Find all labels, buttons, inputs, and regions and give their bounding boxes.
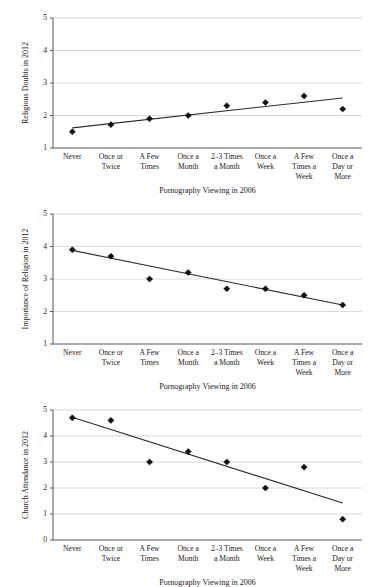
y-tick-label: 5	[43, 209, 47, 218]
x-axis-title: Pornography Viewing in 2006	[159, 382, 255, 391]
x-tick-label: 2–3 Timesa Month	[211, 544, 243, 563]
data-point-marker	[262, 99, 268, 105]
y-tick-label: 4	[43, 431, 47, 440]
x-tick-label: Once aMonth	[178, 152, 200, 171]
trend-line	[72, 417, 342, 503]
data-point-marker	[146, 459, 152, 465]
x-tick-label: A FewTimes	[140, 544, 161, 563]
data-point-marker	[224, 103, 230, 109]
x-tick-label: A FewTimes	[140, 348, 161, 367]
data-point-marker	[108, 417, 114, 423]
y-axis-title: Importance of Religion in 2012	[21, 229, 30, 330]
y-tick-label: 1	[43, 339, 47, 348]
data-point-marker	[69, 129, 75, 135]
x-tick-label: Once aWeek	[255, 544, 277, 563]
y-tick-label: 2	[43, 307, 47, 316]
data-point-marker	[262, 286, 268, 292]
y-axis-title: Religious Doubts in 2012	[21, 42, 30, 124]
three-panel-scatter-figure: 12345NeverOnce orTwiceA FewTimesOnce aMo…	[0, 0, 384, 587]
data-point-marker	[224, 459, 230, 465]
x-tick-label: Once aDay orMore	[332, 152, 354, 181]
chart-importance-of-religion: 12345NeverOnce orTwiceA FewTimesOnce aMo…	[0, 196, 384, 392]
y-tick-label: 2	[43, 111, 47, 120]
data-point-marker	[69, 415, 75, 421]
y-tick-label: 2	[43, 483, 47, 492]
y-tick-label: 3	[43, 457, 47, 466]
chart-religious-doubts: 12345NeverOnce orTwiceA FewTimesOnce aMo…	[0, 0, 384, 196]
importance-of-religion-plot: 12345NeverOnce orTwiceA FewTimesOnce aMo…	[0, 196, 384, 392]
x-tick-label: Once aDay orMore	[332, 544, 354, 573]
y-tick-label: 5	[43, 405, 47, 414]
x-tick-label: A FewTimes	[140, 152, 161, 171]
x-tick-label: Once aMonth	[178, 544, 200, 563]
y-tick-label: 1	[43, 143, 47, 152]
y-tick-label: 4	[43, 242, 47, 251]
y-tick-label: 3	[43, 78, 47, 87]
x-tick-label: Once aDay orMore	[332, 348, 354, 377]
data-point-marker	[185, 112, 191, 118]
y-tick-label: 0	[43, 535, 47, 544]
x-tick-label: Once aMonth	[178, 348, 200, 367]
x-tick-label: 2–3 Timesa Month	[211, 348, 243, 367]
x-axis-title: Pornography Viewing in 2006	[159, 186, 255, 195]
x-tick-label: Once aWeek	[255, 152, 277, 171]
x-tick-label: Once orTwice	[99, 348, 124, 367]
data-point-marker	[301, 93, 307, 99]
x-tick-label: 2–3 Timesa Month	[211, 152, 243, 171]
data-point-marker	[340, 516, 346, 522]
y-tick-label: 4	[43, 46, 47, 55]
x-tick-label: Once orTwice	[99, 544, 124, 563]
data-point-marker	[340, 302, 346, 308]
x-tick-label: Never	[63, 152, 82, 161]
trend-line	[72, 250, 342, 305]
data-point-marker	[301, 464, 307, 470]
x-tick-label: Once aWeek	[255, 348, 277, 367]
data-point-marker	[69, 247, 75, 253]
y-axis-title: Church Attendance in 2012	[21, 431, 30, 519]
data-point-marker	[108, 122, 114, 128]
data-point-marker	[146, 276, 152, 282]
y-tick-label: 5	[43, 13, 47, 22]
data-point-marker	[340, 106, 346, 112]
y-tick-label: 3	[43, 274, 47, 283]
x-tick-label: Once orTwice	[99, 152, 124, 171]
x-tick-label: Never	[63, 544, 82, 553]
religious-doubts-plot: 12345NeverOnce orTwiceA FewTimesOnce aMo…	[0, 0, 384, 196]
x-tick-label: Never	[63, 348, 82, 357]
chart-church-attendance: 012345NeverOnce orTwiceA FewTimesOnce aM…	[0, 392, 384, 587]
data-point-marker	[262, 485, 268, 491]
x-tick-label: A FewTimes aWeek	[292, 544, 317, 573]
y-tick-label: 1	[43, 509, 47, 518]
church-attendance-plot: 012345NeverOnce orTwiceA FewTimesOnce aM…	[0, 392, 384, 587]
x-tick-label: A FewTimes aWeek	[292, 348, 317, 377]
x-tick-label: A FewTimes aWeek	[292, 152, 317, 181]
data-point-marker	[146, 116, 152, 122]
x-axis-title: Pornography Viewing in 2006	[159, 578, 255, 587]
data-point-marker	[224, 286, 230, 292]
